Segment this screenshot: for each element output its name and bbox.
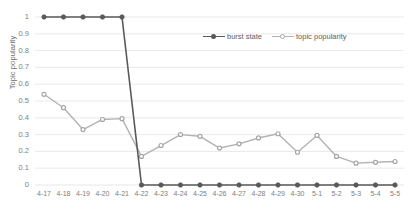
data-point bbox=[295, 183, 299, 187]
data-point bbox=[62, 106, 66, 110]
data-point bbox=[315, 133, 319, 137]
data-point bbox=[81, 15, 85, 19]
data-point bbox=[159, 144, 163, 148]
data-point bbox=[256, 183, 260, 187]
data-point bbox=[218, 146, 222, 150]
data-point bbox=[159, 183, 163, 187]
data-point bbox=[393, 159, 397, 163]
data-point bbox=[276, 183, 280, 187]
legend-marker-burst-state bbox=[203, 33, 225, 40]
data-point bbox=[178, 183, 182, 187]
data-point bbox=[139, 183, 143, 187]
data-point bbox=[315, 183, 319, 187]
data-point bbox=[237, 183, 241, 187]
data-point bbox=[237, 142, 241, 146]
legend-item-burst-state[interactable]: burst state bbox=[203, 32, 262, 41]
data-point bbox=[354, 183, 358, 187]
data-point bbox=[257, 136, 261, 140]
data-point bbox=[354, 161, 358, 165]
chart-legend: burst state topic popularity bbox=[203, 32, 346, 41]
data-point bbox=[334, 183, 338, 187]
legend-marker-topic-popularity bbox=[272, 33, 294, 40]
data-point bbox=[42, 92, 46, 96]
series-line-topic-popularity bbox=[44, 94, 395, 163]
data-point bbox=[61, 15, 65, 19]
legend-item-topic-popularity[interactable]: topic popularity bbox=[272, 32, 346, 41]
data-point bbox=[101, 117, 105, 121]
data-point bbox=[373, 183, 377, 187]
data-point bbox=[81, 128, 85, 132]
data-point bbox=[335, 154, 339, 158]
data-point bbox=[198, 183, 202, 187]
legend-label-topic-popularity: topic popularity bbox=[296, 32, 346, 41]
data-point bbox=[120, 117, 124, 121]
data-point bbox=[296, 150, 300, 154]
data-point bbox=[276, 132, 280, 136]
data-point bbox=[140, 154, 144, 158]
data-point bbox=[120, 15, 124, 19]
data-point bbox=[42, 15, 46, 19]
data-point bbox=[374, 160, 378, 164]
data-point bbox=[217, 183, 221, 187]
chart-container: Topic popularity 10.90.80.70.60.50.40.30… bbox=[0, 0, 409, 211]
data-point bbox=[198, 134, 202, 138]
gridlines bbox=[35, 17, 404, 185]
legend-label-burst-state: burst state bbox=[227, 32, 262, 41]
data-point bbox=[179, 133, 183, 137]
data-point bbox=[100, 15, 104, 19]
data-point bbox=[393, 183, 397, 187]
